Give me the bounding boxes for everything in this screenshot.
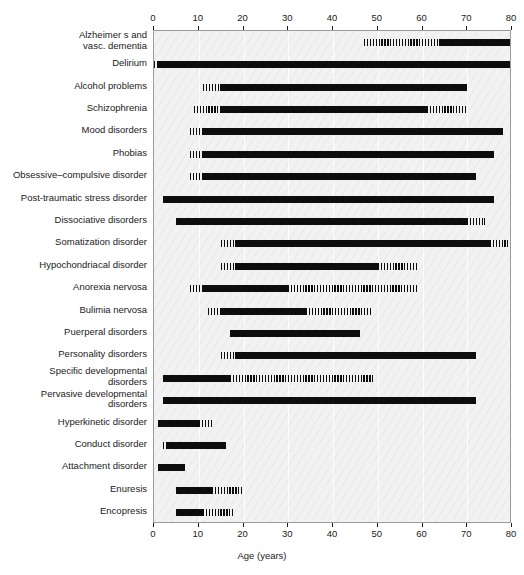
tick-bottom-10	[198, 523, 199, 527]
category-label: Alzheimer s and vasc. dementia	[0, 30, 147, 51]
tick-top-80	[511, 26, 512, 30]
bar-segment-solid	[440, 39, 511, 46]
tick-label-bottom-60: 60	[416, 528, 427, 539]
tick-label-bottom-50: 50	[371, 528, 382, 539]
x-axis-title: Age (years)	[0, 550, 524, 561]
bar-segment-hatch	[306, 308, 373, 315]
tick-bottom-30	[287, 523, 288, 527]
tick-label-bottom-70: 70	[461, 528, 472, 539]
bar-segment-hatch	[221, 240, 234, 247]
category-label: Mood disorders	[0, 125, 147, 136]
bar-segment-solid	[235, 240, 490, 247]
category-label: Specific developmental disorders	[0, 366, 147, 387]
bar-segment-solid	[221, 84, 467, 91]
bar-segment-hatch	[190, 173, 203, 180]
bar-segment-solid	[235, 263, 378, 270]
tick-label-bottom-10: 10	[192, 528, 203, 539]
tick-label-top-60: 60	[416, 12, 427, 23]
tick-label-top-10: 10	[192, 12, 203, 23]
tick-top-50	[377, 26, 378, 30]
bar-segment-solid	[235, 352, 477, 359]
gridline-30	[288, 31, 289, 522]
tick-label-bottom-40: 40	[327, 528, 338, 539]
tick-bottom-60	[422, 523, 423, 527]
tick-label-bottom-0: 0	[150, 528, 155, 539]
category-label: Delirium	[0, 58, 147, 69]
tick-label-top-40: 40	[327, 12, 338, 23]
gridline-70	[467, 31, 468, 522]
tick-top-0	[153, 26, 154, 30]
category-label: Enuresis	[0, 484, 147, 495]
bar-segment-hatch	[212, 487, 243, 494]
bar-segment-hatch	[427, 106, 467, 113]
category-label: Attachment disorder	[0, 461, 147, 472]
bar-segment-solid	[158, 464, 185, 471]
tick-label-top-0: 0	[150, 12, 155, 23]
category-label: Post-traumatic stress disorder	[0, 193, 147, 204]
tick-top-20	[243, 26, 244, 30]
tick-label-top-30: 30	[282, 12, 293, 23]
category-label: Pervasive developmental disorders	[0, 389, 147, 410]
bar-segment-hatch	[288, 285, 418, 292]
gridline-40	[333, 31, 334, 522]
category-label: Puerperal disorders	[0, 327, 147, 338]
bar-segment-solid	[176, 487, 212, 494]
bar-segment-hatch	[230, 375, 373, 382]
bar-segment-solid	[163, 196, 494, 203]
bar-segment-solid	[176, 509, 203, 516]
category-label: Encopresis	[0, 506, 147, 517]
bar-segment-hatch	[203, 509, 234, 516]
bar-segment-hatch	[364, 39, 440, 46]
category-label: Phobias	[0, 148, 147, 159]
tick-top-10	[198, 26, 199, 30]
bar-segment-hatch	[490, 240, 508, 247]
bar-segment-hatch	[208, 308, 221, 315]
bar-segment-hatch	[221, 263, 234, 270]
tick-bottom-40	[332, 523, 333, 527]
tick-label-top-20: 20	[237, 12, 248, 23]
bar-segment-solid	[163, 397, 476, 404]
bar-segment-solid	[203, 128, 503, 135]
gridline-60	[423, 31, 424, 522]
tick-top-30	[287, 26, 288, 30]
category-label: Alcohol problems	[0, 81, 147, 92]
tick-label-bottom-30: 30	[282, 528, 293, 539]
category-label: Hypochondriacal disorder	[0, 260, 147, 271]
bar-segment-hatch	[190, 128, 203, 135]
category-label: Personality disorders	[0, 349, 147, 360]
tick-label-top-70: 70	[461, 12, 472, 23]
bar-segment-solid	[203, 151, 494, 158]
category-label: Conduct disorder	[0, 439, 147, 450]
bar-segment-solid	[203, 173, 476, 180]
bar-segment-solid	[158, 61, 511, 68]
tick-bottom-20	[243, 523, 244, 527]
bar-segment-hatch	[194, 106, 221, 113]
bar-segment-solid	[158, 420, 198, 427]
tick-bottom-70	[466, 523, 467, 527]
bar-segment-solid	[163, 375, 230, 382]
bar-segment-solid	[221, 308, 306, 315]
tick-label-top-50: 50	[371, 12, 382, 23]
bar-segment-solid	[176, 218, 467, 225]
tick-label-bottom-20: 20	[237, 528, 248, 539]
category-label: Dissociative disorders	[0, 215, 147, 226]
tick-label-top-80: 80	[506, 12, 517, 23]
bar-segment-solid	[203, 285, 288, 292]
bar-segment-hatch	[221, 352, 234, 359]
bar-segment-solid	[167, 442, 225, 449]
bar-segment-hatch	[378, 263, 418, 270]
bar-segment-hatch	[467, 218, 485, 225]
tick-top-70	[466, 26, 467, 30]
tick-bottom-80	[511, 523, 512, 527]
bar-segment-solid	[221, 106, 427, 113]
tick-label-bottom-80: 80	[506, 528, 517, 539]
category-label: Bulimia nervosa	[0, 305, 147, 316]
plot-area	[153, 30, 511, 523]
tick-top-40	[332, 26, 333, 30]
gridline-50	[378, 31, 379, 522]
category-label: Obsessive–compulsive disorder	[0, 170, 147, 181]
bar-segment-solid	[230, 330, 360, 337]
bar-segment-hatch	[199, 420, 212, 427]
age-of-onset-chart: Alzheimer s and vasc. dementiaDeliriumAl…	[0, 0, 524, 575]
bar-segment-hatch	[190, 151, 203, 158]
